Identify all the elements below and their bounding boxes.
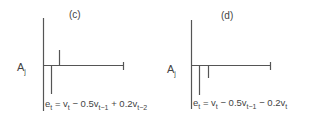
panel-d-axes xyxy=(192,20,271,109)
panel-c-ylabel: Aj xyxy=(17,61,26,75)
panel-c-title: (c) xyxy=(69,9,81,20)
panel-d-title: (d) xyxy=(221,10,233,21)
panel-c-equation: et = vt − 0.5vt−1 + 0.2vt−2 xyxy=(45,98,147,111)
panel-d-ylabel: Aj xyxy=(167,63,176,77)
panel-d-equation: et = vt − 0.5vt−1 − 0.2vt xyxy=(193,97,287,110)
